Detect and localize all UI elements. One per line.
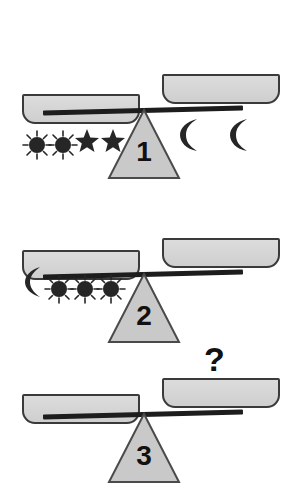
sun-icon	[70, 274, 96, 300]
sun-icon	[48, 130, 74, 156]
sun-icon	[44, 274, 70, 300]
top-edge-artifact: _ _ _ _ _ _ _ _ _ _ _ _	[2, 0, 182, 8]
scale-3-left-items	[22, 238, 140, 300]
sun-icon	[22, 130, 48, 156]
moon-icon	[176, 118, 202, 152]
scale-3-right-pan	[162, 378, 280, 408]
scale-2-right-items	[162, 90, 280, 152]
scale-2-left-items	[22, 94, 140, 156]
scale-3-number: 3	[107, 442, 181, 470]
scale-2-right-pan	[162, 238, 280, 268]
puzzle-canvas: _ _ _ _ _ _ _ _ _ _ _ _	[0, 0, 286, 487]
star-icon	[100, 128, 126, 154]
moon-icon	[226, 118, 252, 152]
scale-3-fulcrum: 3	[107, 412, 181, 484]
sun-icon	[96, 274, 122, 300]
moon-icon	[22, 266, 44, 298]
unknown-question-mark: ?	[204, 342, 225, 376]
balance-scale-3: ? 3	[0, 322, 286, 482]
